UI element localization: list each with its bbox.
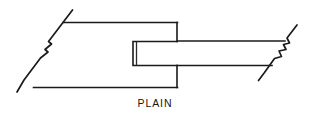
- figure-caption: PLAIN: [138, 97, 173, 109]
- break-line-left-icon: [17, 10, 73, 92]
- figure-canvas: PLAIN: [0, 0, 312, 123]
- joint-drawing: PLAIN: [0, 0, 312, 123]
- break-line-right-icon: [259, 25, 298, 81]
- mortise-slot-outline: [133, 42, 177, 66]
